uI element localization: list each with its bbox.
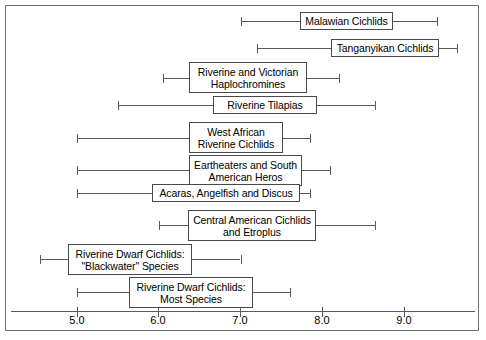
range-cap-low — [40, 255, 41, 264]
range-label-box-west-african-riverine-cichlids: West AfricanRiverine Cichlids — [189, 122, 283, 153]
range-cap-low — [257, 44, 258, 53]
range-label-line: Riverine Dwarf Cichlids: — [75, 248, 184, 260]
range-label-box-eartheaters-south-american-heros: Eartheaters and SouthAmerican Heros — [189, 155, 302, 186]
range-label-box-malawian-cichlids: Malawian Cichlids — [300, 12, 393, 30]
range-label-line: Tanganyikan Cichlids — [337, 42, 434, 54]
range-cap-low — [159, 221, 160, 230]
range-label-line: Riverine Tilapias — [227, 99, 302, 111]
range-label-box-riverine-dwarf-cichlids-most-species: Riverine Dwarf Cichlids:Most Species — [129, 277, 253, 308]
range-cap-high — [310, 134, 311, 143]
range-cap-high — [375, 221, 376, 230]
range-label-line: Haplochromines — [211, 78, 285, 90]
range-label-line: Riverine and Victorian — [198, 66, 298, 78]
range-cap-low — [163, 74, 164, 83]
range-cap-low — [118, 101, 119, 110]
range-label-box-riverine-dwarf-cichlids-blackwater: Riverine Dwarf Cichlids:"Blackwater" Spe… — [68, 244, 192, 275]
range-label-line: Malawian Cichlids — [305, 15, 387, 27]
range-cap-high — [437, 17, 438, 26]
range-cap-low — [77, 134, 78, 143]
x-axis-tick-label-9-0: 9.0 — [396, 314, 411, 326]
range-label-box-acaras-angelfish-discus: Acaras, Angelfish and Discus — [152, 184, 300, 202]
range-label-line: "Blackwater" Species — [81, 260, 178, 272]
chart-plot-area: Malawian CichlidsTanganyikan CichlidsRiv… — [0, 0, 486, 340]
range-label-box-riverine-tilapias: Riverine Tilapias — [213, 96, 317, 114]
x-axis-tick-label-8-0: 8.0 — [314, 314, 329, 326]
range-cap-high — [375, 101, 376, 110]
range-label-box-central-american-cichlids-etroplus: Central American Cichlidsand Etroplus — [188, 210, 316, 241]
range-cap-high — [310, 189, 311, 198]
range-cap-high — [339, 74, 340, 83]
range-cap-high — [457, 44, 458, 53]
range-cap-high — [330, 166, 331, 175]
range-label-line: Riverine Cichlids — [198, 138, 275, 150]
range-label-box-tanganyikan-cichlids: Tanganyikan Cichlids — [331, 39, 439, 57]
range-label-line: American Heros — [209, 171, 283, 183]
range-label-line: Eartheaters and South — [194, 159, 297, 171]
range-label-line: Central American Cichlids — [193, 214, 311, 226]
range-label-line: Acaras, Angelfish and Discus — [159, 187, 292, 199]
range-cap-low — [77, 288, 78, 297]
range-cap-low — [241, 17, 242, 26]
x-axis-tick-label-7-0: 7.0 — [232, 314, 247, 326]
range-cap-low — [77, 166, 78, 175]
range-label-line: Riverine Dwarf Cichlids: — [136, 281, 245, 293]
range-label-line: and Etroplus — [223, 226, 281, 238]
range-label-box-riverine-victorian-haplochromines: Riverine and VictorianHaplochromines — [189, 62, 307, 93]
x-axis-tick-label-5-0: 5.0 — [69, 314, 84, 326]
x-axis-line — [11, 311, 475, 312]
x-axis-tick-label-6-0: 6.0 — [150, 314, 165, 326]
range-cap-low — [77, 189, 78, 198]
range-label-line: West African — [207, 126, 265, 138]
ph-range-chart: Malawian CichlidsTanganyikan CichlidsRiv… — [0, 0, 486, 340]
range-label-line: Most Species — [160, 293, 222, 305]
range-cap-high — [290, 288, 291, 297]
range-cap-high — [241, 255, 242, 264]
